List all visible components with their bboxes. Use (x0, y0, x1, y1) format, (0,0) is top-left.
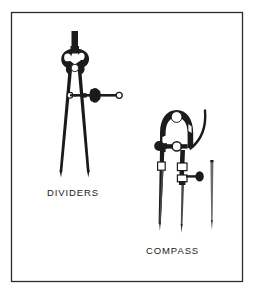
dividers-rod-joint (81, 93, 86, 97)
compass-adjusting-screw (186, 171, 204, 181)
dividers-instrument (60, 31, 123, 178)
dividers-top-handle (71, 31, 80, 50)
compass-lead-leg (177, 150, 187, 233)
dividers-knurled-thumb-nut (90, 88, 101, 103)
compass-center-hinge (166, 142, 188, 151)
compass-label: COMPASS (146, 245, 199, 256)
compass-instrument (154, 110, 205, 233)
dividers-pivot-head (61, 49, 89, 75)
dividers-adjusting-rod (67, 88, 122, 103)
dividers-legs (60, 70, 90, 178)
compass-needle-leg (158, 150, 166, 231)
figure-container: DIVIDERS (0, 0, 254, 295)
dividers-label: DIVIDERS (47, 187, 99, 198)
drafting-instruments-illustration: DIVIDERS (0, 0, 254, 295)
figure-border (12, 13, 243, 282)
spare-point-accessory (210, 160, 213, 230)
